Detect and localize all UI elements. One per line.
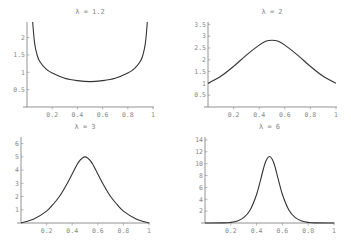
- x-tick-label: 0.4: [253, 111, 265, 119]
- y-tick-label: 2: [199, 207, 203, 215]
- y-tick-label: 0.5: [194, 91, 206, 99]
- y-tick-label: 14: [195, 136, 203, 144]
- y-tick-label: 2: [202, 56, 206, 64]
- y-tick-label: 3.5: [194, 21, 206, 29]
- y-tick-label: 2.5: [194, 44, 206, 52]
- y-tick-label: 6: [15, 140, 19, 148]
- subplot-title: λ = 6: [259, 123, 280, 131]
- x-tick-label: 0.8: [122, 111, 134, 119]
- y-tick-label: 1.5: [13, 51, 25, 59]
- series-line: [208, 40, 336, 83]
- subplot-title: λ = 3: [74, 123, 95, 131]
- x-tick-label: 0.2: [225, 227, 237, 235]
- series-line: [205, 157, 334, 223]
- series-line: [33, 22, 148, 82]
- y-tick-label: 12: [195, 148, 203, 156]
- y-tick-label: 8: [199, 172, 203, 180]
- x-tick-label: 0.6: [92, 227, 104, 235]
- x-tick-label: 0.2: [228, 111, 240, 119]
- x-tick-label: 0.4: [66, 227, 78, 235]
- x-tick-label: 1: [334, 111, 338, 119]
- x-tick-label: 1: [332, 227, 336, 235]
- subplot-4: λ = 60.20.40.60.812468101214: [195, 123, 336, 235]
- y-tick-label: 5: [15, 153, 19, 161]
- y-tick-label: 2: [15, 193, 19, 201]
- x-tick-label: 0.2: [46, 111, 58, 119]
- x-tick-label: 1: [147, 227, 151, 235]
- x-tick-label: 0.6: [97, 111, 109, 119]
- subplot-title: λ = 1.2: [75, 8, 105, 16]
- subplot-1: λ = 1.20.20.40.60.810.511.52: [13, 8, 155, 119]
- x-tick-label: 0.4: [72, 111, 84, 119]
- y-tick-label: 1: [21, 69, 25, 77]
- series-line: [21, 157, 149, 223]
- subplot-2: λ = 20.20.40.60.810.511.522.533.5: [194, 8, 338, 119]
- x-tick-label: 0.8: [118, 227, 130, 235]
- y-tick-label: 3: [15, 180, 19, 188]
- y-tick-label: 2: [21, 34, 25, 42]
- y-tick-label: 0.5: [13, 86, 25, 94]
- x-tick-label: 0.4: [251, 227, 263, 235]
- y-tick-label: 4: [15, 166, 19, 174]
- y-tick-label: 1: [202, 80, 206, 88]
- y-tick-label: 1: [15, 206, 19, 214]
- chart-grid: λ = 1.20.20.40.60.810.511.52λ = 20.20.40…: [0, 0, 351, 242]
- x-tick-label: 1: [151, 111, 155, 119]
- y-tick-label: 3: [202, 32, 206, 40]
- subplot-3: λ = 30.20.40.60.81123456: [15, 123, 151, 235]
- subplot-title: λ = 2: [261, 8, 282, 16]
- x-tick-label: 0.6: [277, 227, 289, 235]
- y-tick-label: 1.5: [194, 68, 206, 76]
- y-tick-label: 10: [195, 160, 203, 168]
- y-tick-label: 4: [199, 196, 203, 204]
- y-tick-label: 6: [199, 184, 203, 192]
- x-tick-label: 0.6: [279, 111, 291, 119]
- x-tick-label: 0.8: [302, 227, 314, 235]
- x-tick-label: 0.8: [305, 111, 317, 119]
- x-tick-label: 0.2: [41, 227, 53, 235]
